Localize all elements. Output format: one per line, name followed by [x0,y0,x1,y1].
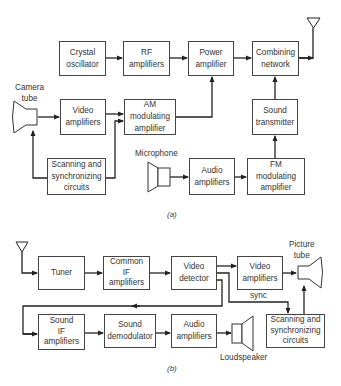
block-fm-modulating-amplifier: FM modulating amplifier [247,158,305,195]
block-scanning-sync-a: Scanning and synchronizing circuits [47,158,106,195]
label-microphone: Microphone [135,149,178,160]
block-video-detector: Video detector [171,256,217,290]
block-video-amplifiers-b: Video amplifiers [237,256,283,290]
caption-a: (a) [167,210,177,219]
camera-tube-icon [13,101,38,133]
block-sound-demodulator: Sound demodulator [104,314,156,348]
block-tuner: Tuner [38,256,85,290]
block-audio-amplifiers-a: Audio amplifiers [189,158,235,195]
block-sound-transmitter: Sound transmitter [252,99,298,135]
block-video-amplifiers-a: Video amplifiers [60,99,106,135]
caption-b: (b) [167,364,177,373]
block-crystal-oscillator: Crystal oscillator [59,41,106,76]
block-sound-if-amplifiers: Sound IF amplifiers [38,314,85,350]
block-audio-amplifiers-b: Audio amplifiers [171,314,217,348]
block-am-modulating-amplifier: AM modulating amplifier [124,99,176,135]
block-rf-amplifiers: RF amplifiers [123,41,170,76]
block-common-if-amplifiers: Common IF amplifiers [103,256,150,290]
label-camera-tube: Camera tube [15,83,44,104]
microphone-icon [148,162,170,192]
label-loudspeaker: Loudspeaker [220,353,267,364]
block-power-amplifier: Power amplifier [188,41,234,76]
block-combining-network: Combining network [252,41,299,76]
picture-tube-icon [298,257,323,288]
label-picture-tube: Picture tube [289,240,314,261]
label-sync: sync [250,291,267,302]
loudspeaker-icon [232,316,253,351]
block-scanning-sync-b: Scanning and synchronizing circuits [266,314,325,348]
